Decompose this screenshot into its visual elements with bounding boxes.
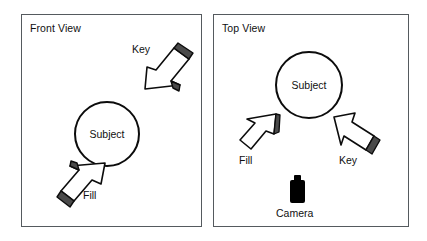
- front-view-subject-circle: Subject: [74, 101, 140, 167]
- top-view-key-label: Key: [339, 154, 357, 166]
- panel-top-view-title: Top View: [222, 22, 265, 34]
- panel-front-view-title: Front View: [30, 22, 81, 34]
- top-view-subject-label: Subject: [291, 79, 326, 91]
- front-view-subject-label: Subject: [89, 128, 124, 140]
- camera-body-icon: [290, 180, 305, 203]
- diagram-canvas: Front View Key Subject Fill Top View Sub…: [0, 0, 427, 241]
- top-view-fill-label: Fill: [239, 154, 252, 166]
- front-view-key-arrow-icon: [142, 37, 204, 99]
- camera-icon: [290, 175, 305, 203]
- panel-top-view: Top View Subject Fill Key Camera: [213, 14, 409, 227]
- top-view-camera-label: Camera: [276, 207, 313, 219]
- front-view-fill-label: Fill: [83, 189, 96, 201]
- top-view-key-arrow-icon: [330, 103, 388, 161]
- front-view-key-label: Key: [132, 43, 150, 55]
- panel-front-view: Front View Key Subject Fill: [21, 14, 202, 227]
- front-view-fill-arrow-icon: [50, 159, 112, 217]
